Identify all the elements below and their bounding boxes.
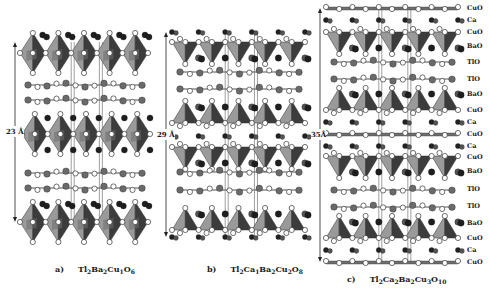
tl-atom [409, 202, 416, 209]
oxygen-atom [429, 130, 434, 135]
tl-atom [350, 205, 357, 212]
ca-atom [433, 145, 438, 150]
oxygen-atom [420, 186, 425, 191]
ba-atom [352, 220, 358, 226]
oxygen-atom [169, 39, 174, 44]
tl-atom [236, 71, 243, 78]
layer-label: BaO [467, 167, 482, 175]
oxygen-atom [81, 219, 86, 224]
tl-atom [429, 77, 436, 84]
structure-panel-c [323, 4, 464, 265]
cuo5-pyramid-face [212, 208, 225, 230]
oxygen-atom [420, 75, 425, 80]
oxygen-atom [337, 175, 342, 180]
oxygen-atom [69, 50, 74, 55]
ca-atom [407, 145, 412, 150]
oxygen-atom [35, 84, 40, 89]
ca-atom [380, 249, 385, 254]
oxygen-atom [289, 227, 294, 232]
oxygen-atom [361, 203, 366, 208]
oxygen-atom [400, 60, 405, 65]
oxygen-atom [337, 213, 342, 218]
tl-atom [101, 183, 108, 190]
tl-atom [139, 97, 146, 104]
oxygen-atom [350, 29, 355, 34]
element-symbol: Cu [107, 264, 119, 274]
oxygen-atom [227, 70, 232, 75]
oxygen-atom [73, 186, 78, 191]
tl-atom [120, 171, 127, 178]
ca-atom [280, 31, 285, 36]
oxygen-atom [107, 199, 112, 204]
cuo5-pyramid-face [239, 147, 252, 169]
oxygen-atom [81, 30, 86, 35]
tl-atom [256, 185, 263, 192]
oxygen-atom [416, 6, 421, 11]
chemical-formula: Tl2Ba2Cu1O6 [78, 264, 135, 274]
ca-atom [200, 31, 205, 36]
layer-label: BaO [467, 219, 482, 227]
cuo5-pyramid-face [265, 101, 278, 123]
oxygen-atom [442, 132, 447, 137]
cuo5-pyramid-face [212, 147, 225, 169]
ba-atom [69, 203, 75, 209]
element-symbol: Ca [383, 274, 395, 284]
tl-atom [139, 82, 146, 89]
oxygen-atom [177, 36, 182, 41]
oxygen-atom [177, 141, 182, 146]
oxygen-atom [358, 150, 363, 155]
tl-atom [177, 69, 184, 76]
oxygen-atom [411, 26, 416, 31]
ba-atom [198, 212, 204, 218]
oxygen-atom [267, 168, 272, 173]
oxygen-atom [209, 144, 214, 149]
tl-atom [390, 189, 397, 196]
oxygen-atom [130, 172, 135, 177]
oxygen-atom [111, 169, 116, 174]
ba-atom [405, 92, 411, 98]
ca-atom [380, 19, 385, 24]
oxygen-atom [196, 227, 201, 232]
oxygen-atom [376, 258, 381, 263]
cuo5-pyramid-face [292, 42, 305, 64]
oxygen-atom [30, 219, 35, 224]
oxygen-atom [384, 150, 389, 155]
oxygen-atom [236, 98, 241, 103]
tl-atom [390, 78, 397, 85]
ba-atom [458, 220, 464, 226]
oxygen-atom [111, 81, 116, 86]
oxygen-atom [231, 230, 236, 235]
tl-atom [216, 84, 223, 91]
tl-atom [82, 84, 89, 91]
ca-atom [433, 121, 438, 126]
oxygen-atom [107, 239, 112, 244]
tl-atom [370, 74, 377, 81]
cuo5-pyramid-face [172, 147, 185, 169]
layer-label: Ca [467, 16, 476, 24]
oxygen-atom [35, 172, 40, 177]
oxygen-atom [267, 85, 272, 90]
tl-atom [120, 98, 127, 105]
ba-atom [376, 91, 382, 97]
oxygen-atom [442, 175, 447, 180]
oxygen-atom [56, 50, 61, 55]
ba-atom [45, 147, 51, 153]
oxygen-atom [81, 70, 86, 75]
cuo5-pyramid-face [239, 208, 252, 230]
tl-atom [44, 171, 51, 178]
tl-atom [449, 76, 456, 83]
oxygen-atom [120, 219, 125, 224]
tl-atom [390, 61, 397, 68]
oxygen-atom [289, 98, 294, 103]
oxygen-atom [350, 107, 355, 112]
cuo5-pyramid-face [252, 208, 265, 230]
ca-atom [280, 236, 285, 241]
oxygen-atom [302, 120, 307, 125]
oxygen-atom [284, 123, 289, 128]
oxygen-atom [56, 30, 61, 35]
oxygen-atom [183, 144, 188, 149]
tl-atom [276, 87, 283, 94]
tl-atom [25, 82, 32, 89]
oxygen-atom [455, 130, 460, 135]
oxygen-atom [442, 6, 447, 11]
